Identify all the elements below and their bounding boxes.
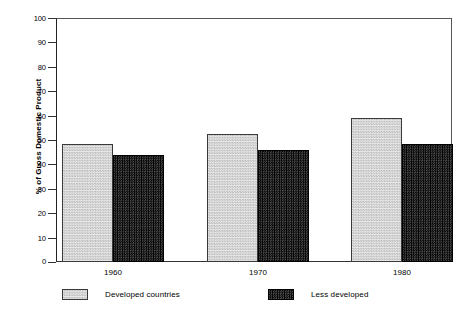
- bar-1980-less-developed: [402, 144, 453, 262]
- y-tick-mark-60: [48, 116, 56, 117]
- bar-1960-developed: [62, 144, 113, 262]
- x-tick-label-1960: 1960: [83, 268, 143, 277]
- y-tick-label-60: 60: [18, 113, 46, 121]
- y-tick-label-50: 50: [18, 137, 46, 145]
- bar-chart: % of Gross Domestic Product 100 90 80 70…: [0, 0, 469, 319]
- y-tick-label-0: 0: [18, 258, 46, 266]
- bar-1980-developed: [351, 118, 402, 262]
- y-tick-label-30: 30: [18, 186, 46, 194]
- y-tick-mark-80: [48, 67, 56, 68]
- y-tick-label-80: 80: [18, 64, 46, 72]
- y-tick-mark-90: [48, 42, 56, 43]
- bar-1970-developed: [207, 134, 258, 262]
- bar-1960-less-developed: [113, 155, 164, 262]
- y-tick-mark-100: [48, 18, 56, 19]
- y-tick-mark-30: [48, 189, 56, 190]
- y-tick-mark-20: [48, 213, 56, 214]
- y-tick-label-90: 90: [18, 39, 46, 47]
- x-tick-label-1980: 1980: [372, 268, 432, 277]
- y-tick-label-40: 40: [18, 161, 46, 169]
- y-tick-mark-70: [48, 91, 56, 92]
- bar-1970-less-developed: [258, 150, 309, 262]
- legend-item-less-developed: Less developed: [268, 289, 368, 300]
- legend-label-developed-countries: Developed countries: [105, 290, 180, 299]
- y-tick-mark-0: [48, 262, 56, 263]
- y-tick-label-10: 10: [18, 235, 46, 243]
- y-tick-label-20: 20: [18, 210, 46, 218]
- y-tick-label-100: 100: [18, 15, 46, 23]
- x-tick-label-1970: 1970: [228, 268, 288, 277]
- y-tick-mark-50: [48, 140, 56, 141]
- y-tick-label-70: 70: [18, 88, 46, 96]
- y-tick-mark-10: [48, 238, 56, 239]
- y-tick-mark-40: [48, 164, 56, 165]
- legend-light-stipple-swatch-icon: [62, 289, 88, 300]
- legend-label-less-developed: Less developed: [311, 290, 368, 299]
- legend-item-developed-countries: Developed countries: [62, 289, 180, 300]
- legend-dark-checker-swatch-icon: [268, 289, 294, 300]
